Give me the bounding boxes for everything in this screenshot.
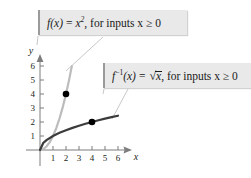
y-axis-label: y: [28, 45, 34, 56]
x-tick-label-5: 5: [103, 153, 108, 163]
finv-argument: (x): [123, 70, 136, 82]
leader-line-finv-stub: [103, 89, 104, 94]
fx-condition-text: , for inputs x ≥ 0: [84, 17, 161, 29]
callout-finv-text: f−1(x)=√x, for inputs x ≥ 0: [112, 69, 238, 82]
y-tick-label-1: 1: [31, 131, 36, 141]
y-tick-label-4: 4: [31, 89, 36, 99]
finv-exponent: −1: [115, 68, 123, 77]
data-point-4-2: [89, 119, 96, 126]
y-tick-label-5: 5: [31, 75, 36, 85]
x-axis-label: x: [133, 151, 139, 162]
x-tick-label-6: 6: [116, 153, 121, 163]
figure-container: 1 2 3 4 5 6 1 2 3 4 5 6 y x f(x)=x2, for…: [0, 0, 251, 178]
x-tick-marks: [53, 146, 118, 150]
data-point-2-4: [63, 91, 70, 98]
x-tick-label-2: 2: [64, 153, 69, 163]
finv-condition-text: , for inputs x ≥ 0: [161, 70, 238, 82]
x-tick-label-3: 3: [77, 153, 82, 163]
curve-f-x-squared: [40, 66, 72, 150]
y-axis-arrow: [37, 54, 44, 62]
x-tick-label-4: 4: [90, 153, 95, 163]
y-tick-label-3: 3: [31, 103, 36, 113]
callout-f-inverse-sqrt-x: f−1(x)=√x, for inputs x ≥ 0: [103, 63, 251, 88]
fx-equals: =: [63, 17, 76, 29]
curve-f-inverse-sqrt-x: [40, 116, 118, 150]
y-tick-label-6: 6: [31, 61, 36, 71]
finv-equals: =: [136, 70, 149, 82]
y-tick-label-2: 2: [31, 117, 36, 127]
callout-fx-text: f(x)=x2, for inputs x ≥ 0: [47, 16, 161, 29]
x-axis-arrow: [124, 146, 133, 153]
fx-argument: (x): [50, 17, 63, 29]
leader-line-finv: [112, 89, 128, 119]
radical-sign: √: [148, 70, 156, 83]
x-tick-label-1: 1: [51, 153, 56, 163]
radical-bar: [155, 71, 162, 72]
y-tick-marks: [40, 66, 44, 136]
leader-line-fx-stub: [37, 36, 38, 45]
callout-f-x-squared: f(x)=x2, for inputs x ≥ 0: [38, 10, 187, 35]
